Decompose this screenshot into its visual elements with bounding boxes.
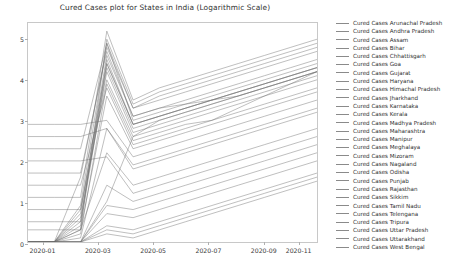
legend-item[interactable]: Cured Cases Uttarakhand bbox=[336, 235, 457, 243]
legend-line-icon bbox=[336, 147, 349, 148]
chart-figure: Cured Cases plot for States in India (Lo… bbox=[0, 0, 457, 268]
legend-line-icon bbox=[336, 131, 349, 132]
y-axis-tick-label: 0 bbox=[20, 241, 24, 248]
legend-line-icon bbox=[336, 189, 349, 190]
legend-item[interactable]: Cured Cases Kerala bbox=[336, 110, 457, 118]
legend-item[interactable]: Cured Cases Maharashtra bbox=[336, 127, 457, 135]
legend-line-icon bbox=[336, 155, 349, 156]
legend-item[interactable]: Cured Cases Arunachal Pradesh bbox=[336, 19, 457, 27]
x-axis-tick-label: 2020-07 bbox=[195, 247, 221, 254]
legend-item-label: Cured Cases Uttarakhand bbox=[353, 235, 425, 243]
legend-item-label: Cured Cases Kerala bbox=[353, 110, 407, 118]
y-axis-tick-mark bbox=[25, 80, 28, 81]
legend-line-icon bbox=[336, 122, 349, 123]
legend-item[interactable]: Cured Cases Haryana bbox=[336, 77, 457, 85]
y-axis-tick-mark bbox=[25, 203, 28, 204]
legend-item-label: Cured Cases Rajasthan bbox=[353, 185, 418, 193]
legend-line-icon bbox=[336, 72, 349, 73]
legend-item-label: Cured Cases Telengana bbox=[353, 210, 418, 218]
legend-item-label: Cured Cases Uttar Pradesh bbox=[353, 226, 428, 234]
legend-item[interactable]: Cured Cases Karnataka bbox=[336, 102, 457, 110]
legend-item[interactable]: Cured Cases Himachal Pradesh bbox=[336, 85, 457, 93]
legend-item[interactable]: Cured Cases Tamil Nadu bbox=[336, 202, 457, 210]
legend-line-icon bbox=[336, 180, 349, 181]
legend-item-label: Cured Cases Maharashtra bbox=[353, 127, 425, 135]
series-line bbox=[28, 92, 317, 242]
legend-item-label: Cured Cases Meghalaya bbox=[353, 143, 420, 151]
legend-item-label: Cured Cases Jharkhand bbox=[353, 94, 418, 102]
legend-item-label: Cured Cases Nagaland bbox=[353, 160, 416, 168]
series-line bbox=[28, 112, 317, 242]
series-line bbox=[28, 137, 317, 194]
legend-item[interactable]: Cured Cases Assam bbox=[336, 36, 457, 44]
series-line bbox=[28, 39, 317, 230]
series-lines bbox=[28, 23, 317, 242]
legend-item-label: Cured Cases Odisha bbox=[353, 168, 409, 176]
legend-item-label: Cured Cases Tripura bbox=[353, 218, 409, 226]
legend-item[interactable]: Cured Cases Rajasthan bbox=[336, 185, 457, 193]
legend-item[interactable]: Cured Cases Goa bbox=[336, 60, 457, 68]
x-axis-tick-mark bbox=[43, 242, 44, 245]
legend-item-label: Cured Cases Manipur bbox=[353, 135, 413, 143]
legend-item[interactable]: Cured Cases Nagaland bbox=[336, 160, 457, 168]
legend-item[interactable]: Cured Cases Bihar bbox=[336, 44, 457, 52]
legend-item-label: Cured Cases Andhra Pradesh bbox=[353, 27, 434, 35]
series-line bbox=[28, 31, 317, 197]
legend-item[interactable]: Cured Cases Mizoram bbox=[336, 152, 457, 160]
legend-item[interactable]: Cured Cases Jharkhand bbox=[336, 94, 457, 102]
legend-line-icon bbox=[336, 222, 349, 223]
x-axis-tick-label: 2020-01 bbox=[30, 247, 56, 254]
legend-line-icon bbox=[336, 197, 349, 198]
legend-line-icon bbox=[336, 164, 349, 165]
legend-item[interactable]: Cured Cases Gujarat bbox=[336, 69, 457, 77]
legend-item[interactable]: Cured Cases Andhra Pradesh bbox=[336, 27, 457, 35]
legend-item-label: Cured Cases Goa bbox=[353, 60, 401, 68]
legend-item[interactable]: Cured Cases Telengana bbox=[336, 210, 457, 218]
legend-item[interactable]: Cured Cases Uttar Pradesh bbox=[336, 226, 457, 234]
legend-item[interactable]: Cured Cases Madhya Pradesh bbox=[336, 119, 457, 127]
legend-line-icon bbox=[336, 97, 349, 98]
legend-item[interactable]: Cured Cases Chhattisgarh bbox=[336, 52, 457, 60]
legend-item-label: Cured Cases Haryana bbox=[353, 77, 413, 85]
legend-item[interactable]: Cured Cases Odisha bbox=[336, 168, 457, 176]
legend-item-label: Cured Cases Arunachal Pradesh bbox=[353, 19, 442, 27]
y-axis-tick-mark bbox=[25, 39, 28, 40]
legend-line-icon bbox=[336, 106, 349, 107]
legend-line-icon bbox=[336, 213, 349, 214]
legend-item[interactable]: Cured Cases Punjab bbox=[336, 177, 457, 185]
legend-item[interactable]: Cured Cases Meghalaya bbox=[336, 143, 457, 151]
chart-title: Cured Cases plot for States in India (Lo… bbox=[0, 3, 330, 12]
legend-item-label: Cured Cases Karnataka bbox=[353, 102, 418, 110]
x-axis-tick-label: 2020-05 bbox=[140, 247, 166, 254]
legend-item-label: Cured Cases Sikkim bbox=[353, 193, 408, 201]
legend-line-icon bbox=[336, 48, 349, 49]
legend-item-label: Cured Cases Mizoram bbox=[353, 152, 414, 160]
legend-line-icon bbox=[336, 205, 349, 206]
legend-line-icon bbox=[336, 81, 349, 82]
legend-line-icon bbox=[336, 39, 349, 40]
y-axis-tick-label: 3 bbox=[20, 118, 24, 125]
legend-item-label: Cured Cases Himachal Pradesh bbox=[353, 85, 440, 93]
legend-line-icon bbox=[336, 31, 349, 32]
legend-line-icon bbox=[336, 56, 349, 57]
legend-item-label: Cured Cases West Bengal bbox=[353, 243, 425, 251]
legend-line-icon bbox=[336, 247, 349, 248]
legend-item[interactable]: Cured Cases Tripura bbox=[336, 218, 457, 226]
legend-item-label: Cured Cases Gujarat bbox=[353, 69, 411, 77]
plot-area: 0123452020-012020-032020-052020-072020-0… bbox=[27, 22, 318, 243]
series-line bbox=[28, 145, 317, 242]
y-axis-tick-mark bbox=[25, 244, 28, 245]
x-axis-tick-mark bbox=[299, 242, 300, 245]
chart-legend: Cured Cases Arunachal PradeshCured Cases… bbox=[336, 19, 457, 251]
x-axis-tick-label: 2020-09 bbox=[251, 247, 277, 254]
y-axis-tick-mark bbox=[25, 121, 28, 122]
legend-item-label: Cured Cases Punjab bbox=[353, 177, 409, 185]
legend-item[interactable]: Cured Cases West Bengal bbox=[336, 243, 457, 251]
legend-item[interactable]: Cured Cases Sikkim bbox=[336, 193, 457, 201]
legend-line-icon bbox=[336, 114, 349, 115]
legend-item[interactable]: Cured Cases Manipur bbox=[336, 135, 457, 143]
x-axis-tick-mark bbox=[264, 242, 265, 245]
y-axis-tick-label: 2 bbox=[20, 159, 24, 166]
y-axis-tick-label: 5 bbox=[20, 36, 24, 43]
legend-line-icon bbox=[336, 139, 349, 140]
